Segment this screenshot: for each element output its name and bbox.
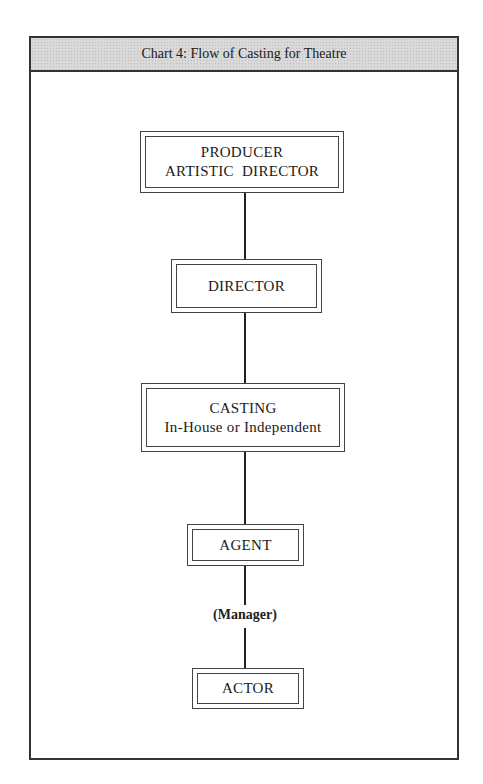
chart-title: Chart 4: Flow of Casting for Theatre — [31, 38, 457, 72]
node-agent: AGENT — [187, 524, 304, 566]
node-agent-label: AGENT — [219, 536, 271, 555]
connector-manager-actor — [244, 628, 246, 669]
manager-label: (Manager) — [213, 607, 277, 623]
connector-casting-agent — [244, 451, 246, 525]
node-director: DIRECTOR — [171, 259, 322, 313]
connector-agent-manager — [244, 565, 246, 605]
node-producer-line1: PRODUCER — [201, 143, 283, 162]
node-director-label: DIRECTOR — [208, 277, 285, 296]
node-actor: ACTOR — [192, 668, 304, 709]
node-casting: CASTING In-House or Independent — [141, 383, 345, 452]
connector-director-casting — [244, 312, 246, 384]
node-casting-line1: CASTING — [209, 399, 276, 418]
node-producer-line2: ARTISTIC DIRECTOR — [165, 162, 319, 181]
node-actor-label: ACTOR — [222, 679, 274, 698]
node-producer: PRODUCER ARTISTIC DIRECTOR — [140, 131, 344, 193]
connector-producer-director — [244, 192, 246, 260]
node-casting-line2: In-House or Independent — [165, 418, 322, 437]
